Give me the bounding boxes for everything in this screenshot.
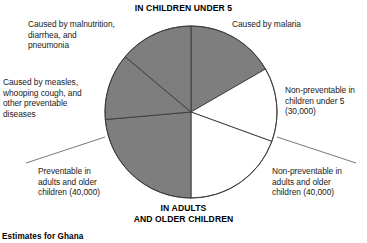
slice-label-preventable-adults: Preventable in adults and older children… [38,166,158,198]
chart-title-children: IN CHILDREN UNDER 5 [0,3,367,14]
chart-title-adults: IN ADULTS AND OLDER CHILDREN [0,203,367,225]
slice-label-nonpreventable-adults: Non-preventable in adults and older chil… [272,166,367,198]
slice-label-malnutrition: Caused by malnutrition, diarrhea, and pn… [28,19,154,51]
slice-label-measles: Caused by measles, whooping cough, and o… [3,77,127,119]
leader-line-nonpreventable-adults [277,137,356,163]
slice-label-malaria: Caused by malaria [232,19,362,30]
leader-line-preventable-adults [26,137,105,163]
slice-label-nonpreventable-children: Non-preventable in children under 5 (30,… [285,85,367,117]
figure-caption: Estimates for Ghana [2,232,84,241]
pie-chart-figure: IN CHILDREN UNDER 5 IN ADULTS AND OLDER … [0,0,367,243]
